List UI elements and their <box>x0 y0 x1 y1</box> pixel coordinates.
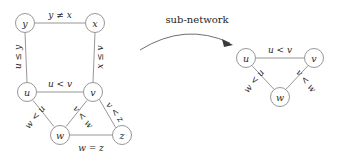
node-label-u-sub: u <box>243 53 249 64</box>
edge-label-y-x: y ≠ x <box>47 10 71 20</box>
edge-label-u-v: u < v <box>48 79 72 89</box>
edge-label-v2-w2: v < w <box>294 68 318 95</box>
node-label-x: x <box>92 18 98 29</box>
edge-label-u2-w2: w < u <box>242 67 266 94</box>
edge-label-x-v: x ≤ v <box>95 45 105 68</box>
node-label-y: y <box>21 18 28 29</box>
sub-network-annotation: sub-network <box>140 14 233 51</box>
edge-label-w-z: w = z <box>78 143 104 153</box>
main-network-group: y x u v w z y ≠ x u ≤ y x ≤ v u < v w < … <box>13 10 132 153</box>
edge-label-v-w: v < w <box>71 104 95 131</box>
curved-arrow-icon <box>140 34 230 50</box>
arrow-head-icon <box>222 39 233 47</box>
node-label-w-sub: w <box>276 92 284 103</box>
edge-label-v-z: v < z <box>104 100 126 125</box>
figure-svg-canvas: y x u v w z y ≠ x u ≤ y x ≤ v u < v w < … <box>0 0 337 161</box>
edge-label-y-u: u ≤ y <box>13 44 23 69</box>
node-label-u: u <box>24 87 30 98</box>
edge-label-u-w: w < u <box>23 103 47 130</box>
node-label-z: z <box>118 130 125 141</box>
constraint-network-figure: y x u v w z y ≠ x u ≤ y x ≤ v u < v w < … <box>0 0 337 161</box>
sub-network-group: u v w u < v w < u v < w <box>237 45 324 107</box>
node-label-w: w <box>56 130 64 141</box>
sub-network-caption: sub-network <box>165 14 229 25</box>
edge-y-u <box>25 33 27 83</box>
node-label-v-sub: v <box>311 53 317 64</box>
node-label-v: v <box>90 87 96 98</box>
edge-label-u2-v2: u < v <box>268 45 292 55</box>
